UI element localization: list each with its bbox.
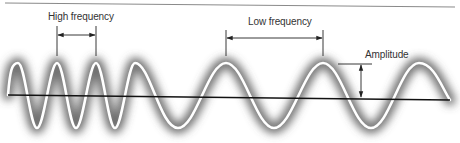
baseline [8,95,450,100]
high-frequency-label: High frequency [48,11,114,22]
amplitude-label: Amplitude [365,49,409,60]
top-rule [5,3,455,7]
high-frequency-annotation: High frequency [48,11,114,56]
low-frequency-label: Low frequency [248,16,312,27]
low-frequency-annotation: Low frequency [226,16,323,56]
wave-frequency-amplitude-diagram: High frequency Low frequency Amplitude [0,0,460,143]
